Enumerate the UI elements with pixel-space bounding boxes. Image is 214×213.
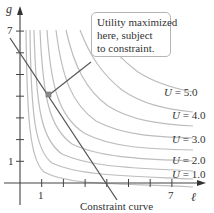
x-axis-label: ℓ (191, 191, 196, 203)
optimum-callout: Utility maximized here, subject to const… (91, 12, 171, 57)
u-label-2: U = 2.0 (172, 155, 205, 166)
constraint-label: Constraint curve (80, 201, 153, 212)
y-axis-arrow-icon (17, 6, 23, 15)
x-tick-label-1: 1 (38, 190, 44, 201)
x-axis-arrow-icon (197, 180, 206, 186)
u-label-1: U = 1.0 (172, 169, 205, 180)
callout-line-3: to constraint. (97, 42, 165, 55)
y-tick-label-1: 1 (8, 156, 14, 167)
callout-line-2: here, subject (97, 29, 165, 42)
u-label-3: U = 3.0 (172, 134, 205, 145)
u-label-4: U = 4.0 (172, 110, 205, 121)
y-axis-label: g (6, 3, 12, 15)
y-tick-label-7: 7 (7, 25, 13, 36)
u-label-5: U = 5.0 (164, 87, 197, 98)
callout-line-1: Utility maximized (97, 16, 165, 29)
x-tick-label-7: 7 (168, 190, 174, 201)
optimum-point (46, 92, 51, 97)
constraint-line (10, 38, 117, 200)
